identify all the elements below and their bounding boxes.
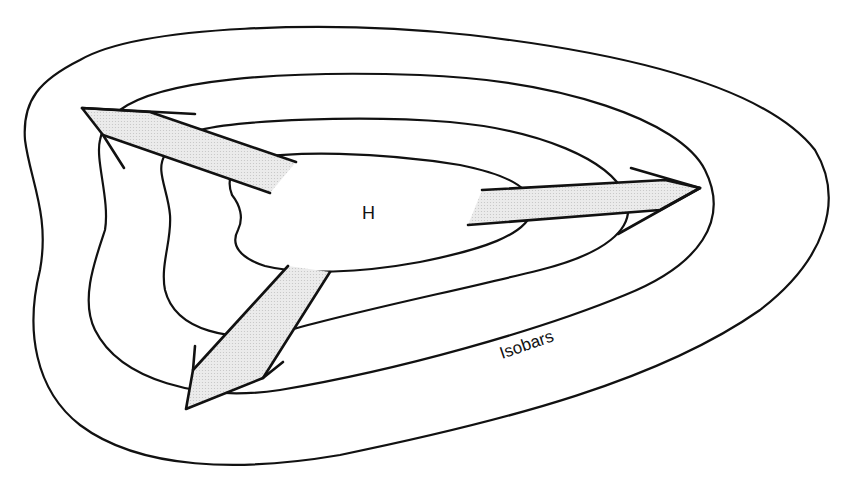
isobar-outer bbox=[25, 27, 829, 465]
high-pressure-label: H bbox=[362, 203, 375, 223]
high-pressure-diagram: H Isobars bbox=[0, 0, 849, 484]
outflow-arrow-southwest bbox=[186, 266, 330, 409]
isobars-label: Isobars bbox=[497, 327, 556, 363]
